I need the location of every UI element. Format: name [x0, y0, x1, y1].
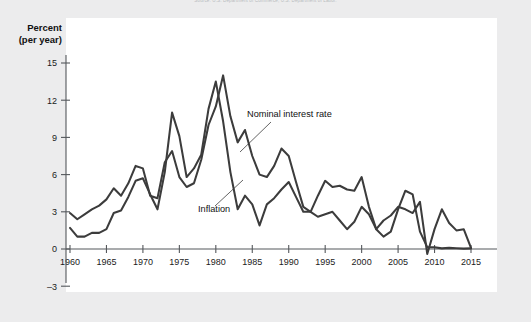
- annotation-nominal-interest-rate: Nominal interest rate: [247, 109, 332, 119]
- x-tick-label: 1960: [60, 257, 80, 267]
- x-tick-label: 2015: [461, 257, 481, 267]
- x-tick-label: 2005: [388, 257, 408, 267]
- y-tick-label: 9: [52, 133, 57, 143]
- y-tick-label: –3: [47, 282, 57, 292]
- y-tick-label: 3: [52, 207, 57, 217]
- leader-line-inflation: [215, 180, 243, 206]
- x-tick-label: 1970: [133, 257, 153, 267]
- leader-line-nominal: [240, 122, 271, 152]
- x-tick-label: 1980: [206, 257, 226, 267]
- series-line-nominal-interest-rate: [70, 75, 471, 248]
- x-tick-label: 1990: [279, 257, 299, 267]
- x-tick-label: 2010: [425, 257, 445, 267]
- x-tick-label: 1975: [169, 257, 189, 267]
- x-tick-label: 1985: [242, 257, 262, 267]
- figure-container: Source: U.S. Department of Commerce; U.S…: [0, 0, 531, 322]
- line-chart: –303691215 19601965197019751980198519901…: [0, 0, 531, 322]
- x-tick-label: 1965: [96, 257, 116, 267]
- annotation-inflation: Inflation: [198, 204, 230, 214]
- x-tick-label: 1995: [315, 257, 335, 267]
- y-tick-label: 15: [47, 58, 57, 68]
- x-axis-ticks: 1960196519701975198019851990199520002005…: [60, 245, 481, 267]
- y-tick-label: 12: [47, 96, 57, 106]
- y-tick-label: 0: [52, 244, 57, 254]
- x-tick-label: 2000: [352, 257, 372, 267]
- series-line-inflation: [70, 82, 471, 254]
- y-tick-label: 6: [52, 170, 57, 180]
